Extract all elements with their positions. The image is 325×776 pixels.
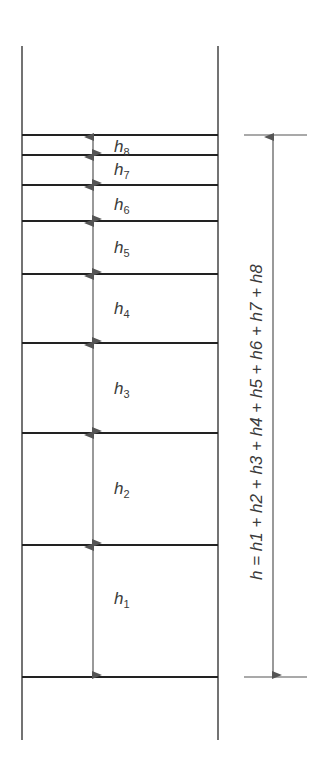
total-height-formula: h = h1 + h2 + h3 + h4 + h5 + h6 + h7 + h… <box>247 264 266 580</box>
layer-label-h5: h5 <box>114 238 130 259</box>
layer-label-h7: h7 <box>114 160 130 181</box>
layer-label-h3: h3 <box>114 379 130 400</box>
layer-label-h8: h8 <box>114 137 130 158</box>
layer-label-h6: h6 <box>114 195 130 216</box>
layer-label-h2: h2 <box>114 479 130 500</box>
layered-column-diagram: h8 h7 h6 h5 h4 h3 h2 h1 h = h1 + h2 + h3… <box>0 0 325 776</box>
layer-label-h1: h1 <box>114 589 130 610</box>
layer-label-h4: h4 <box>114 299 130 320</box>
